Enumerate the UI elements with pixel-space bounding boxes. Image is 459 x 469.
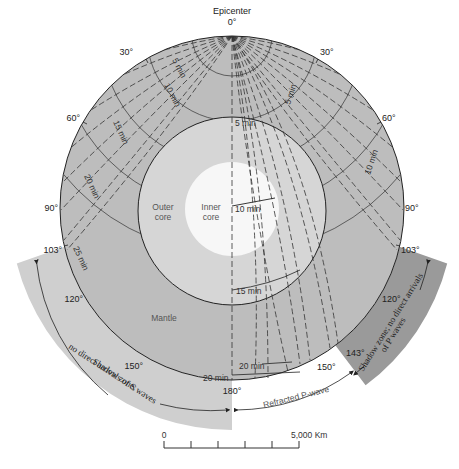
inner-core-label-1: Inner (201, 202, 221, 212)
deg-right-30: 30° (320, 47, 334, 57)
outer-core-label-1: Outer (152, 202, 173, 212)
deg-left-30: 30° (119, 47, 133, 57)
time-15min-core: 15 min (236, 286, 262, 296)
earth-seismic-diagram: Epicenter 0° 30° 30° 60° 60° 90° 90° 103… (0, 0, 459, 469)
deg-right-103: 103° (401, 245, 420, 255)
scale-start: 0 (162, 430, 167, 440)
inner-core-label-2: core (203, 212, 220, 222)
time-5min-core: 5 min (235, 118, 256, 128)
outer-core-label-2: core (155, 212, 172, 222)
scale-end: 5,000 Km (291, 430, 327, 440)
epicenter-label: Epicenter (213, 6, 251, 16)
deg-right-90: 90° (405, 203, 419, 213)
epicenter-degree: 0° (228, 17, 237, 27)
time-10min-core: 10 min (235, 204, 261, 214)
deg-right-60: 60° (382, 113, 396, 123)
deg-left-120: 120° (64, 294, 83, 304)
deg-180: 180° (223, 386, 242, 396)
mantle-label: Mantle (151, 313, 177, 323)
deg-left-103: 103° (43, 245, 62, 255)
deg-right-150: 150° (317, 362, 336, 372)
deg-left-60: 60° (66, 113, 80, 123)
deg-left-150: 150° (124, 361, 143, 371)
time-20min-outer: 20 min (203, 373, 229, 383)
scale-bar: 0 5,000 Km (162, 430, 328, 448)
time-20min-inner: 20 min (239, 361, 265, 371)
deg-left-90: 90° (44, 203, 58, 213)
refracted-p-label: Refracted P-wave (262, 384, 330, 410)
